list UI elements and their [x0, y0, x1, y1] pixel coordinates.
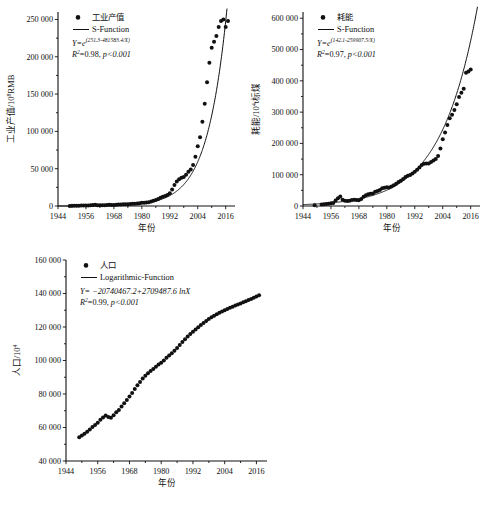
legend-label-fit: Logarithmic-Function [100, 273, 175, 282]
legend-label-fit: S-Function [92, 25, 130, 34]
data-point [469, 68, 473, 72]
x-tick-label: 1944 [295, 212, 311, 221]
x-tick-label: 2004 [190, 212, 206, 221]
x-tick-label: 2004 [216, 467, 232, 476]
x-tick-label: 1956 [90, 467, 106, 476]
y-tick-label: 250 000 [26, 15, 53, 24]
y-axis-title: 人口/104 [12, 344, 22, 376]
x-tick-label: 1944 [50, 212, 66, 221]
x-tick-label: 2004 [435, 212, 451, 221]
legend-label-series: 工业产值 [92, 12, 125, 22]
stats-annotation: R2=0.98, p<0.001 [71, 49, 131, 59]
data-point [438, 146, 442, 150]
equation-annotation: Y=e(142.1-259907.5/X) [317, 37, 375, 47]
x-tick-label: 1980 [134, 212, 150, 221]
x-tick-label: 1992 [185, 467, 201, 476]
equation-annotation: Y= −20740467.2+2709487.6 lnX [80, 287, 191, 296]
data-point [172, 183, 176, 187]
y-tick-label: 80 000 [38, 390, 61, 399]
data-point [135, 383, 139, 387]
x-tick-label: 1992 [162, 212, 178, 221]
legend-energy: 耗能S-Function [318, 12, 375, 34]
data-point [441, 137, 445, 141]
chart-panel-industrial-output: 050 000100 000150 000200 000250 00019441… [0, 0, 245, 248]
x-tick-label: 1968 [121, 467, 137, 476]
data-point [138, 380, 142, 384]
data-point [196, 144, 200, 148]
chart-svg-energy: 0100 000200 000300 000400 000500 000600 … [245, 0, 490, 248]
y-tick-label: 100 000 [271, 171, 298, 180]
data-point [127, 394, 131, 398]
data-point [450, 113, 454, 117]
chart-svg-industry: 050 000100 000150 000200 000250 00019441… [0, 0, 245, 248]
x-tick-label: 2016 [462, 212, 478, 221]
data-point [217, 25, 221, 29]
data-point [214, 34, 218, 38]
data-point [221, 17, 225, 21]
data-points-industry [68, 17, 230, 207]
y-tick-label: 160 000 [34, 256, 61, 265]
data-point [224, 25, 228, 29]
x-tick-label: 1944 [58, 467, 74, 476]
x-tick-label: 2016 [217, 212, 233, 221]
y-tick-label: 60 000 [38, 423, 61, 432]
data-point [212, 40, 216, 44]
x-axis-title: 年份 [138, 222, 156, 233]
y-tick-label: 120 000 [34, 323, 61, 332]
data-point [445, 123, 449, 127]
legend-population: 人口Logarithmic-Function [81, 261, 175, 282]
x-tick-label: 1992 [407, 212, 423, 221]
data-point [125, 398, 129, 402]
stats-annotation: R2=0.99, p<0.001 [79, 297, 139, 307]
svg-text:人口/104: 人口/104 [12, 344, 22, 376]
data-points-energy [313, 68, 473, 208]
data-point [459, 91, 463, 95]
data-point [448, 116, 452, 120]
data-point [96, 421, 100, 425]
data-point [436, 154, 440, 158]
y-tick-label: 0 [49, 202, 53, 211]
data-point [191, 163, 195, 167]
data-point [457, 95, 461, 99]
y-tick-label: 200 000 [26, 53, 53, 62]
legend-label-fit: S-Function [337, 25, 375, 34]
x-tick-label: 1956 [323, 212, 339, 221]
y-tick-label: 100 000 [34, 356, 61, 365]
figure-container: 050 000100 000150 000200 000250 00019441… [0, 0, 490, 505]
x-axis-title: 年份 [383, 222, 401, 233]
data-point [170, 188, 174, 192]
legend-label-series: 人口 [100, 261, 116, 270]
svg-text:耗能/104t标煤: 耗能/104t标煤 [250, 83, 261, 135]
legend-marker-dot [76, 15, 81, 20]
data-point [117, 408, 121, 412]
x-tick-label: 1980 [153, 467, 169, 476]
y-tick-label: 0 [294, 202, 298, 211]
data-point [189, 167, 193, 171]
data-point [198, 135, 202, 139]
y-tick-label: 600 000 [271, 14, 298, 23]
y-axis-title: 耗能/104t标煤 [250, 83, 261, 135]
data-point [130, 391, 134, 395]
data-point [462, 87, 466, 91]
data-point [203, 102, 207, 106]
x-tick-label: 1956 [78, 212, 94, 221]
data-point [455, 102, 459, 106]
data-point [175, 346, 179, 350]
legend-label-series: 耗能 [337, 12, 354, 22]
y-tick-label: 140 000 [34, 289, 61, 298]
data-point [313, 203, 317, 207]
y-tick-label: 500 000 [271, 45, 298, 54]
data-point [112, 413, 116, 417]
data-point [443, 130, 447, 134]
data-point [122, 401, 126, 405]
data-point [207, 61, 211, 65]
x-tick-label: 2016 [248, 467, 264, 476]
equation-annotation: Y=e(251.3-481583.4/X) [72, 37, 130, 47]
y-tick-label: 200 000 [271, 139, 298, 148]
data-point [205, 80, 209, 84]
data-point [120, 405, 124, 409]
data-point [226, 19, 230, 23]
y-tick-label: 40 000 [38, 457, 61, 466]
legend-industry: 工业产值S-Function [73, 12, 130, 34]
data-point [452, 108, 456, 112]
